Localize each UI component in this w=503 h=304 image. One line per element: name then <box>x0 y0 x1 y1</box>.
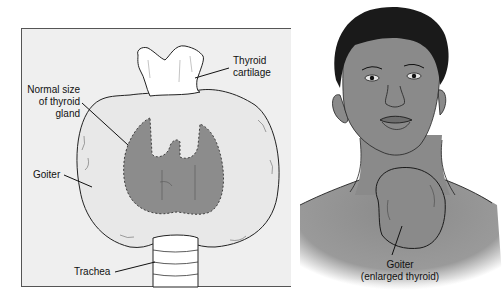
thyroid-cartilage <box>138 46 204 96</box>
label-line: gland <box>20 108 80 120</box>
label-trachea: Trachea <box>74 266 110 278</box>
label-goiter-right: Goiter (enlarged thyroid) <box>355 259 445 283</box>
leader-line-trachea <box>115 262 155 272</box>
label-line: Goiter <box>355 259 445 271</box>
label-goiter-left: Goiter <box>33 169 60 181</box>
label-line: Normal size <box>20 84 80 96</box>
trachea <box>153 235 198 287</box>
label-line: of thyroid <box>20 96 80 108</box>
label-line: (enlarged thyroid) <box>355 271 445 283</box>
label-line: cartilage <box>233 67 271 79</box>
label-normal-size: Normal size of thyroid gland <box>20 84 80 120</box>
label-line: Thyroid <box>233 55 271 67</box>
label-thyroid-cartilage: Thyroid cartilage <box>233 55 271 79</box>
